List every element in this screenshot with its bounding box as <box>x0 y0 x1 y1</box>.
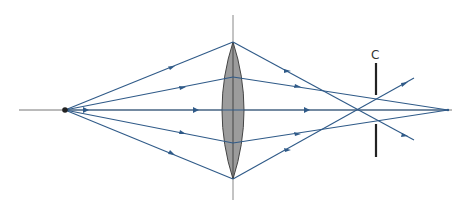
arrow-icon <box>179 130 186 134</box>
arrow-icon <box>168 150 175 155</box>
arrow-icon <box>83 107 89 113</box>
point-source <box>62 107 68 113</box>
rays <box>65 42 448 179</box>
arrow-icon <box>193 107 199 113</box>
ray-in-outer-bottom <box>65 110 233 179</box>
ray-out-inner-top <box>233 77 448 110</box>
ray-in-inner-top <box>65 77 233 110</box>
paraxial-focus <box>447 109 449 111</box>
ray-in-inner-bottom <box>65 110 233 143</box>
ray-out-outer-bottom <box>233 78 414 179</box>
arrow-icon <box>168 66 175 70</box>
ray-in-outer-top <box>65 42 233 110</box>
ray-out-inner-bottom <box>233 110 448 143</box>
arrow-icon <box>304 107 310 113</box>
screen-label: C <box>371 48 379 62</box>
lens-diagram: C <box>0 0 468 216</box>
arrow-icon <box>401 82 408 87</box>
